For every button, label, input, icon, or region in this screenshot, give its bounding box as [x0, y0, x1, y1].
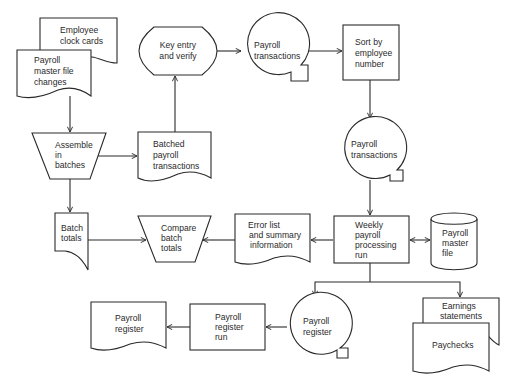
node-label: processing [355, 240, 397, 250]
node-label: register [303, 327, 332, 337]
edge-weekly-to-earnings [370, 282, 460, 297]
node-label: Batched [153, 139, 185, 149]
node-label: clock cards [60, 36, 103, 46]
node-batched-payroll-transactions: Batched payroll transactions [138, 132, 211, 181]
node-payroll-register-tape: Payroll register [290, 292, 352, 358]
node-label: run [215, 332, 228, 342]
node-label: Payroll [351, 139, 377, 149]
node-label: Payroll [34, 55, 60, 65]
node-label: file [442, 248, 453, 258]
node-label: transactions [254, 51, 300, 61]
node-label: statements [440, 311, 482, 321]
node-compare-batch-totals: Compare batch totals [138, 216, 211, 262]
node-label: Sort by [355, 37, 383, 47]
node-payroll-register-run: Payroll register run [190, 304, 265, 350]
node-label: register [215, 322, 244, 332]
node-key-entry-and-verify: Key entry and verify [139, 27, 217, 75]
node-label: Payroll [215, 312, 241, 322]
node-label: Employee [60, 25, 98, 35]
node-label: and summary [249, 230, 302, 240]
node-error-list-and-summary: Error list and summary information [235, 214, 310, 264]
node-label: register [115, 324, 144, 334]
node-label: batch [161, 233, 182, 243]
node-label: Payroll [303, 316, 329, 326]
node-label: run [355, 250, 368, 260]
node-label: payroll [355, 230, 380, 240]
node-label: transactions [153, 161, 199, 171]
node-label: master file [34, 66, 74, 76]
node-label: Earnings [442, 301, 476, 311]
node-payroll-transactions-tape-1: Payroll transactions [248, 13, 310, 81]
node-payroll-register-report: Payroll register [91, 302, 166, 350]
node-label: totals [61, 233, 82, 243]
node-label: Paychecks [432, 340, 474, 350]
node-label: Payroll [115, 313, 141, 323]
node-label: payroll [153, 150, 178, 160]
node-label: changes [34, 77, 67, 87]
node-label: Payroll [442, 228, 468, 238]
node-paychecks: Paychecks [413, 323, 489, 373]
node-label: and verify [159, 51, 197, 61]
node-label: Assemble [55, 140, 93, 150]
node-payroll-transactions-tape-2: Payroll transactions [345, 117, 407, 181]
node-label: Batch [61, 223, 83, 233]
connectors [70, 51, 460, 327]
node-label: batches [55, 160, 85, 170]
node-weekly-payroll-processing-run: Weekly payroll processing run [334, 216, 409, 263]
node-label: information [250, 240, 293, 250]
node-label: number [355, 59, 384, 69]
node-label: Weekly [355, 220, 384, 230]
node-batch-totals: Batch totals [55, 213, 88, 270]
node-label: Key entry [160, 40, 197, 50]
node-sort-by-employee-number: Sort by employee number [343, 25, 399, 80]
payroll-flowchart: Employee clock cards Payroll master file… [0, 0, 513, 385]
node-label: Compare [161, 223, 197, 233]
node-label: employee [355, 48, 392, 58]
node-label: transactions [351, 150, 397, 160]
node-label: master [442, 238, 468, 248]
node-label: in [55, 150, 62, 160]
node-payroll-master-file-changes: Payroll master file changes [17, 50, 91, 98]
node-payroll-master-file: Payroll master file [431, 213, 477, 270]
node-label: Payroll [254, 40, 280, 50]
node-assemble-in-batches: Assemble in batches [32, 133, 106, 179]
node-label: Error list [248, 220, 281, 230]
node-label: totals [161, 243, 182, 253]
